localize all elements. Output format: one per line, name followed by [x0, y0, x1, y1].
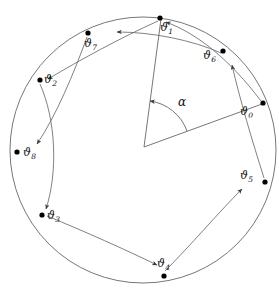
point-label-t6: ϑ6: [203, 50, 216, 63]
angle-alpha-group: [144, 19, 262, 147]
point-subscript-t5: 5: [248, 175, 253, 184]
point-label-t7: ϑ7: [84, 38, 97, 51]
angle-label-alpha: α: [178, 96, 186, 108]
diagram-svg: [0, 0, 279, 297]
arc-t3-to-t4: [47, 216, 157, 265]
point-glyph-t0: ϑ: [240, 105, 248, 118]
angle-ray-to-t1: [144, 19, 161, 147]
point-subscript-t3: 3: [55, 215, 60, 224]
point-label-t8: ϑ8: [23, 147, 36, 160]
point-glyph-t4: ϑ: [157, 257, 165, 270]
point-glyph-t8: ϑ: [23, 146, 31, 159]
point-label-t4: ϑ4: [157, 258, 170, 271]
point-subscript-t1: 1: [168, 27, 173, 36]
point-label-t3: ϑ3: [47, 210, 60, 223]
point-label-t0: ϑ0: [240, 106, 253, 119]
point-glyph-t6: ϑ: [203, 49, 211, 62]
arc-t1-to-t2: [48, 21, 158, 79]
point-dot-t5[interactable]: [262, 179, 267, 184]
point-subscript-t8: 8: [31, 152, 36, 161]
point-dot-t6[interactable]: [220, 48, 225, 53]
point-label-t1: ϑ1: [160, 22, 173, 35]
arc-t7-to-t8: [37, 37, 87, 144]
point-dot-t3[interactable]: [39, 212, 44, 217]
point-subscript-t0: 0: [248, 111, 253, 120]
point-subscript-t2: 2: [52, 79, 57, 88]
point-dot-t2[interactable]: [37, 77, 42, 82]
point-label-t2: ϑ2: [44, 74, 57, 87]
point-subscript-t4: 4: [165, 263, 170, 272]
arc-t5-to-t6: [232, 65, 264, 178]
point-dot-t4[interactable]: [161, 273, 166, 278]
point-subscript-t7: 7: [92, 43, 97, 52]
point-dot-t7[interactable]: [85, 30, 90, 35]
main-circle: [10, 17, 276, 283]
figure-canvas: ϑ0 ϑ1 ϑ2 ϑ3 ϑ4 ϑ5 ϑ6 ϑ7 ϑ8 α: [0, 0, 279, 297]
point-glyph-t3: ϑ: [47, 209, 55, 222]
point-dot-t8[interactable]: [14, 149, 19, 154]
point-dot-t1[interactable]: [157, 15, 162, 20]
point-dot-t0[interactable]: [260, 100, 265, 105]
point-label-t5: ϑ5: [240, 170, 253, 183]
point-subscript-t6: 6: [211, 55, 216, 64]
point-glyph-t5: ϑ: [240, 169, 248, 182]
point-glyph-t1: ϑ: [160, 21, 168, 34]
point-glyph-t7: ϑ: [84, 37, 92, 50]
arc-t2-to-t3: [40, 84, 54, 209]
point-glyph-t2: ϑ: [44, 73, 52, 86]
rotation-arrows: [37, 21, 264, 271]
boundary-points: [14, 15, 267, 278]
arc-t4-to-t5: [165, 189, 242, 271]
